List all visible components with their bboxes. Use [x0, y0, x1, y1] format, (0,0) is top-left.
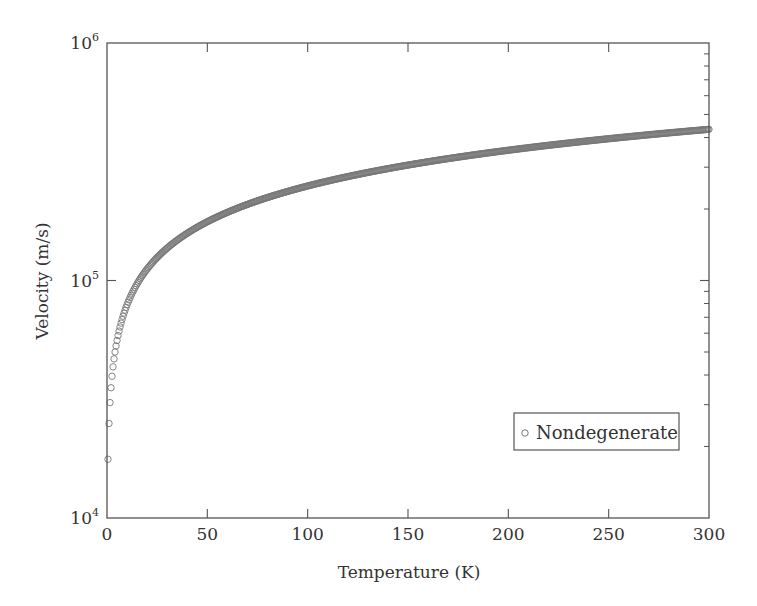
x-tick-label: 100: [291, 524, 323, 544]
x-tick-label: 0: [102, 524, 113, 544]
data-point-marker: [111, 356, 117, 362]
x-tick-label: 50: [197, 524, 219, 544]
x-tick-label: 300: [693, 524, 725, 544]
x-tick-label: 150: [392, 524, 424, 544]
data-point-marker: [110, 364, 116, 370]
legend: Nondegenerate: [514, 413, 679, 450]
x-tick-label: 200: [492, 524, 524, 544]
y-axis-ticks: 104105106: [70, 31, 709, 528]
x-tick-label: 250: [592, 524, 624, 544]
y-tick-label: 104: [70, 506, 99, 528]
legend-label: Nondegenerate: [536, 422, 678, 443]
data-point-marker: [108, 385, 114, 391]
data-point-marker: [105, 456, 111, 462]
y-axis-title: Velocity (m/s): [32, 222, 52, 340]
data-point-marker: [109, 373, 115, 379]
velocity-temperature-chart: 050100150200250300 104105106 Temperature…: [0, 0, 757, 606]
data-point-marker: [112, 349, 118, 355]
data-point-marker: [116, 328, 122, 334]
x-axis-ticks: 050100150200250300: [102, 43, 726, 544]
y-tick-label: 105: [70, 269, 99, 291]
data-point-marker: [107, 399, 113, 405]
data-markers: [105, 126, 712, 462]
y-tick-label: 106: [70, 31, 99, 53]
x-axis-title: Temperature (K): [338, 562, 481, 582]
